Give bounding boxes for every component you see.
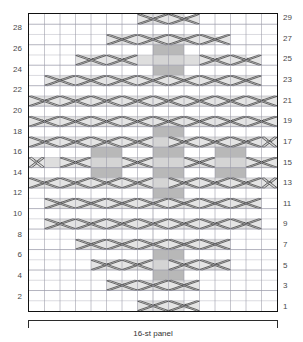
shaded-cell	[169, 45, 185, 55]
row-label-right-21: 21	[283, 96, 303, 106]
knitting-chart: 282624222018161412108642 292725232119171…	[0, 0, 303, 342]
shaded-cell	[169, 168, 185, 178]
row-label-left-8: 8	[0, 230, 22, 240]
row-label-right-11: 11	[283, 199, 303, 209]
row-label-left-10: 10	[0, 209, 22, 219]
row-label-left-28: 28	[0, 23, 22, 33]
shaded-cell	[153, 250, 169, 260]
row-label-left-18: 18	[0, 127, 22, 137]
shaded-cell	[169, 270, 185, 280]
shaded-cell	[153, 270, 169, 280]
shaded-cell	[107, 168, 123, 178]
shaded-cell	[169, 250, 185, 260]
shaded-cell	[169, 127, 185, 137]
shaded-cell	[153, 127, 169, 137]
panel-caption: 16-st panel	[28, 328, 278, 339]
row-label-right-25: 25	[283, 54, 303, 64]
shaded-cell	[91, 147, 107, 157]
shaded-cell	[215, 147, 231, 157]
shaded-cell	[231, 168, 247, 178]
row-label-left-22: 22	[0, 85, 22, 95]
shaded-cell	[153, 45, 169, 55]
shaded-cell	[91, 168, 107, 178]
row-label-left-12: 12	[0, 188, 22, 198]
shaded-cell	[169, 65, 185, 75]
shaded-cell	[153, 65, 169, 75]
row-label-right-15: 15	[283, 158, 303, 168]
shaded-cell	[169, 188, 185, 198]
row-label-right-17: 17	[283, 137, 303, 147]
shaded-cell	[107, 147, 123, 157]
shaded-cell	[153, 168, 169, 178]
shaded-cell	[153, 188, 169, 198]
row-label-right-3: 3	[283, 281, 303, 291]
row-label-left-20: 20	[0, 106, 22, 116]
shaded-cell	[169, 147, 185, 157]
chart-grid[interactable]	[28, 13, 278, 312]
row-label-right-19: 19	[283, 116, 303, 126]
panel-bracket	[28, 320, 278, 328]
row-label-left-24: 24	[0, 65, 22, 75]
row-label-right-13: 13	[283, 178, 303, 188]
shaded-cell	[215, 168, 231, 178]
row-label-left-4: 4	[0, 271, 22, 281]
row-label-right-1: 1	[283, 302, 303, 312]
row-label-right-27: 27	[283, 34, 303, 44]
row-label-right-5: 5	[283, 261, 303, 271]
row-label-left-14: 14	[0, 168, 22, 178]
row-label-right-9: 9	[283, 219, 303, 229]
row-label-left-2: 2	[0, 292, 22, 302]
row-label-right-23: 23	[283, 75, 303, 85]
grid-canvas	[29, 14, 277, 311]
row-label-left-16: 16	[0, 147, 22, 157]
shaded-cell	[153, 147, 169, 157]
row-label-left-6: 6	[0, 250, 22, 260]
row-label-right-7: 7	[283, 240, 303, 250]
row-label-left-26: 26	[0, 44, 22, 54]
shaded-cell	[231, 147, 247, 157]
row-label-right-29: 29	[283, 13, 303, 23]
